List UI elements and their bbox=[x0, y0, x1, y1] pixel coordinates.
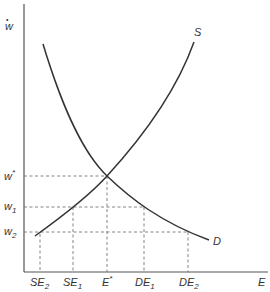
w1-label: w1 bbox=[4, 200, 16, 215]
w2-label: w2 bbox=[4, 225, 17, 240]
labor-market-chart: S D • w w* w1 w2 SE2 SE1 E* DE1 DE2 E bbox=[0, 0, 270, 292]
x-axis-label: E bbox=[258, 276, 266, 288]
se2-label: SE2 bbox=[30, 276, 50, 291]
demand-label: D bbox=[213, 235, 221, 247]
de1-label: DE1 bbox=[135, 276, 155, 291]
e-star-label: E* bbox=[102, 274, 113, 288]
y-axis-label: w bbox=[5, 20, 14, 32]
de2-label: DE2 bbox=[179, 276, 199, 291]
guide-lines bbox=[24, 176, 188, 272]
w-star-label: w* bbox=[4, 168, 16, 182]
se1-label: SE1 bbox=[63, 276, 82, 291]
supply-label: S bbox=[194, 26, 202, 38]
